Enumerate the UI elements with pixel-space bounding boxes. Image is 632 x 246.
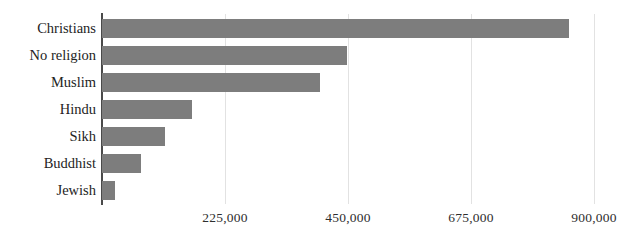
category-label-hindu: Hindu xyxy=(0,100,96,119)
bar xyxy=(102,181,115,200)
x-tick-label-2: 675,000 xyxy=(448,208,493,228)
bars-group xyxy=(102,14,594,204)
x-axis-tick-labels: 225,000450,000675,000900,000 xyxy=(0,208,632,232)
x-tick-label-1: 450,000 xyxy=(325,208,370,228)
bar xyxy=(102,19,569,38)
plot-area xyxy=(102,14,594,204)
bar xyxy=(102,154,141,173)
bar xyxy=(102,73,320,92)
category-label-muslim: Muslim xyxy=(0,73,96,92)
category-label-christians: Christians xyxy=(0,19,96,38)
category-label-jewish: Jewish xyxy=(0,181,96,200)
bar xyxy=(102,100,192,119)
category-label-sikh: Sikh xyxy=(0,127,96,146)
gridline-3 xyxy=(594,14,595,204)
x-tick-label-3: 900,000 xyxy=(571,208,616,228)
x-tick-label-0: 225,000 xyxy=(202,208,247,228)
bar-chart: ChristiansNo religionMuslimHinduSikhBudd… xyxy=(0,0,632,246)
bar xyxy=(102,46,347,65)
bar xyxy=(102,127,165,146)
category-label-buddhist: Buddhist xyxy=(0,154,96,173)
category-axis-labels: ChristiansNo religionMuslimHinduSikhBudd… xyxy=(0,14,96,204)
category-label-no-religion: No religion xyxy=(0,46,96,65)
